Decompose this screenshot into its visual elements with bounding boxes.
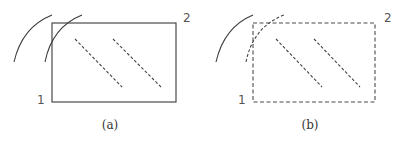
panel-a: 1 2 (a): [14, 11, 191, 132]
panel-b-diagonal-2: [314, 39, 360, 87]
panel-a-inner-arc: [45, 15, 82, 62]
panel-b-diagonal-1: [276, 39, 322, 87]
panel-a-rectangle: [52, 23, 176, 102]
panel-b-label-1: 1: [238, 93, 246, 107]
panel-b-caption: (b): [301, 118, 318, 132]
panel-a-label-2: 2: [183, 11, 191, 25]
panel-a-diagonal-1: [75, 39, 122, 87]
panel-a-label-1: 1: [37, 93, 45, 107]
panel-b-label-2: 2: [384, 11, 392, 25]
figure: 1 2 (a) 1 2 (b): [0, 0, 396, 142]
panel-a-diagonal-2: [113, 39, 161, 87]
panel-b-inner-arc: [246, 15, 284, 62]
panel-b: 1 2 (b): [216, 11, 392, 132]
panel-a-caption: (a): [102, 118, 119, 132]
panel-b-rectangle: [253, 23, 375, 102]
